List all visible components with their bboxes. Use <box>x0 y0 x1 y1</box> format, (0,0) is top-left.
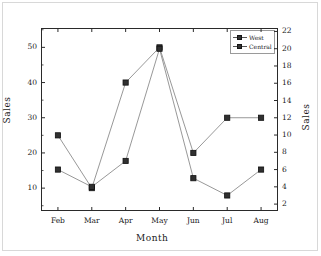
y-tick-right-16: 16 <box>282 78 292 87</box>
data-point-central-may <box>157 46 162 51</box>
chart-page: Sales Sales Month West Central 102030405… <box>0 0 321 256</box>
y-tick-right-20: 20 <box>282 44 292 53</box>
y-tick-right-6: 6 <box>282 165 287 174</box>
y-tick-left-10: 10 <box>19 183 37 192</box>
y-tick-left-40: 40 <box>19 78 37 87</box>
y-tick-left-30: 30 <box>19 113 37 122</box>
y-tick-right-4: 4 <box>282 182 287 191</box>
data-point-west-jul <box>225 115 230 120</box>
x-tick-apr: Apr <box>117 216 135 225</box>
y-tick-right-18: 18 <box>282 61 292 70</box>
x-tick-jul: Jul <box>218 216 236 225</box>
data-point-central-apr <box>123 158 128 163</box>
x-tick-jun: Jun <box>184 216 202 225</box>
y-tick-right-14: 14 <box>282 96 292 105</box>
data-point-west-aug <box>258 115 263 120</box>
data-point-central-feb <box>55 167 60 172</box>
data-point-central-jun <box>191 176 196 181</box>
x-tick-feb: Feb <box>49 216 67 225</box>
data-point-west-feb <box>55 133 60 138</box>
data-point-west-jun <box>191 150 196 155</box>
data-point-central-jul <box>225 193 230 198</box>
y-tick-left-20: 20 <box>19 148 37 157</box>
y-tick-right-10: 10 <box>282 130 292 139</box>
data-point-central-mar <box>89 184 94 189</box>
y-tick-right-12: 12 <box>282 113 292 122</box>
y-tick-right-22: 22 <box>282 26 292 35</box>
x-tick-aug: Aug <box>252 216 270 225</box>
data-point-central-aug <box>258 167 263 172</box>
x-tick-mar: Mar <box>83 216 101 225</box>
y-tick-left-50: 50 <box>19 42 37 51</box>
y-tick-right-8: 8 <box>282 147 287 156</box>
x-tick-may: May <box>151 216 169 225</box>
data-point-west-apr <box>123 80 128 85</box>
y-tick-right-2: 2 <box>282 199 287 208</box>
